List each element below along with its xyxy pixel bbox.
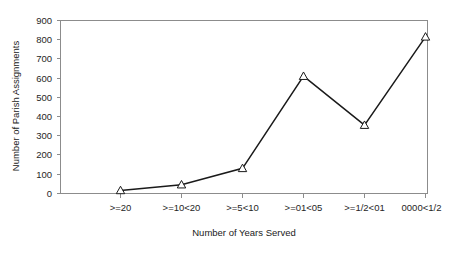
line-chart: 900 800 700 600 500 400 300 200 100 0 Nu…: [0, 0, 453, 255]
x-tick-label-1: >=10<20: [163, 202, 201, 213]
x-tick-label-4: >=1/2<01: [344, 202, 384, 213]
y-tick-label-700: 700: [36, 53, 52, 64]
series-markers: [116, 33, 429, 194]
y-tick-label-200: 200: [36, 149, 52, 160]
y-tick-label-300: 300: [36, 130, 52, 141]
x-axis: >=20 >=10<20 >=5<10 >=01<05 >=1/2<01 000…: [61, 21, 442, 239]
data-point-marker: [421, 33, 429, 40]
y-tick-label-100: 100: [36, 169, 52, 180]
x-axis-ticks: [121, 194, 426, 198]
y-axis-title: Number of Parish Assignments: [10, 41, 21, 172]
y-tick-label-0: 0: [47, 188, 52, 199]
y-tick-label-500: 500: [36, 92, 52, 103]
series-line-parish-assignments: [121, 37, 426, 191]
x-tick-label-5: 0000<1/2: [402, 202, 442, 213]
y-tick-label-800: 800: [36, 34, 52, 45]
y-axis-tick-labels: 900 800 700 600 500 400 300 200 100 0: [36, 15, 52, 199]
y-tick-label-900: 900: [36, 15, 52, 26]
y-axis-ticks: [57, 21, 61, 194]
data-point-marker: [238, 164, 246, 171]
data-series: [116, 33, 429, 194]
x-axis-tick-labels: >=20 >=10<20 >=5<10 >=01<05 >=1/2<01 000…: [110, 202, 442, 213]
x-tick-label-0: >=20: [110, 202, 132, 213]
chart-canvas: 900 800 700 600 500 400 300 200 100 0 Nu…: [0, 0, 453, 255]
data-point-marker: [299, 72, 307, 79]
x-axis-title: Number of Years Served: [192, 227, 296, 238]
y-axis: 900 800 700 600 500 400 300 200 100 0 Nu…: [10, 15, 61, 199]
y-tick-label-400: 400: [36, 111, 52, 122]
x-tick-label-3: >=01<05: [285, 202, 323, 213]
y-tick-label-600: 600: [36, 73, 52, 84]
x-tick-label-2: >=5<10: [226, 202, 259, 213]
